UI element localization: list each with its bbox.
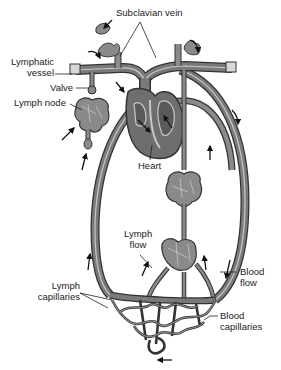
label-lymph-flow-line2: flow	[124, 239, 152, 250]
label-blood-flow-line2: flow	[240, 277, 264, 288]
heart-shape	[126, 89, 184, 159]
label-blood-flow: Blood flow	[240, 266, 264, 288]
label-blood-capillaries: Blood capillaries	[220, 310, 262, 332]
lymphatic-system-diagram: Subclavian vein Lymphatic vessel Valve L…	[0, 0, 281, 370]
label-blood-capillaries-line1: Blood	[220, 310, 262, 321]
label-subclavian-vein: Subclavian vein	[116, 7, 183, 18]
label-lymphatic-vessel-line2: vessel	[2, 67, 54, 78]
label-lymph-flow-line1: Lymph	[124, 228, 152, 239]
label-lymph-capillaries: Lymph capillaries	[20, 280, 80, 302]
label-lymph-capillaries-line1: Lymph	[20, 280, 80, 291]
label-valve: Valve	[50, 82, 73, 93]
label-lymph-flow: Lymph flow	[124, 228, 152, 250]
label-heart: Heart	[138, 160, 161, 171]
label-blood-capillaries-line2: capillaries	[220, 321, 262, 332]
label-lymphatic-vessel-line1: Lymphatic	[2, 56, 54, 67]
label-lymph-node: Lymph node	[14, 97, 66, 108]
label-lymphatic-vessel: Lymphatic vessel	[2, 56, 54, 78]
label-blood-flow-line1: Blood	[240, 266, 264, 277]
left-lymph-vessel-and-node	[75, 72, 109, 149]
capillary-bed	[110, 295, 215, 353]
label-lymph-capillaries-line2: capillaries	[20, 291, 80, 302]
